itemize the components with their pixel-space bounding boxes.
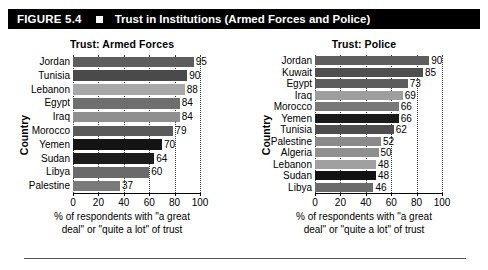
category-label: Palestine <box>29 179 70 193</box>
axis-tick <box>340 193 341 196</box>
axis-tick <box>315 193 316 196</box>
bar <box>73 57 194 67</box>
bar-value-label: 85 <box>423 67 436 79</box>
bar <box>315 68 423 77</box>
xaxis-caption-line2: deal" or "quite a lot" of trust <box>4 224 240 237</box>
category-label: Tunisia <box>280 124 312 136</box>
bar <box>73 181 120 191</box>
plot-area-police: JordanKuwaitEgyptIraqMoroccoYemenTunisia… <box>260 55 476 193</box>
category-label: Yemen <box>281 113 312 125</box>
axis-tick <box>417 193 418 196</box>
bar-value-label: 52 <box>381 136 394 148</box>
category-label: Jordan <box>39 55 70 69</box>
bar-value-label: 88 <box>185 83 198 97</box>
category-label: Libya <box>288 182 312 194</box>
bottom-rule <box>24 258 466 259</box>
category-label: Iraq <box>53 110 70 124</box>
plot-area-armed-forces: JordanTunisiaLebanonEgyptIraqMoroccoYeme… <box>18 55 234 193</box>
bar <box>315 183 373 192</box>
bar-value-label: 90 <box>429 55 442 67</box>
category-label: Jordan <box>281 55 312 67</box>
bar-value-label: 79 <box>173 124 186 138</box>
category-label: Algeria <box>281 147 312 159</box>
xaxis-line-armed-forces <box>73 193 200 194</box>
axis-tick <box>73 193 74 196</box>
bars-police: 908573696666625250484846 <box>315 55 442 193</box>
bar-value-label: 84 <box>180 96 193 110</box>
bar-value-label: 50 <box>379 147 392 159</box>
category-labels-police: JordanKuwaitEgyptIraqMoroccoYemenTunisia… <box>260 55 315 193</box>
bar <box>73 153 154 163</box>
bar <box>73 112 180 122</box>
panel-title-police: Trust: Police <box>246 38 482 50</box>
xaxis-caption-line1: % of respondents with "a great <box>4 211 240 224</box>
category-label: Lebanon <box>31 83 70 97</box>
bar-value-label: 66 <box>399 113 412 125</box>
bars-armed-forces: 95908884847970646037 <box>73 55 200 193</box>
axis-tick <box>175 193 176 196</box>
category-label: Lebanon <box>273 159 312 171</box>
category-labels-armed-forces: JordanTunisiaLebanonEgyptIraqMoroccoYeme… <box>18 55 73 193</box>
figure-number: FIGURE 5.4 <box>17 13 82 25</box>
bar <box>73 70 187 80</box>
bar-value-label: 73 <box>408 78 421 90</box>
category-label: Libya <box>46 165 70 179</box>
category-label: Morocco <box>32 124 70 138</box>
bar-value-label: 90 <box>187 69 200 83</box>
gridline <box>442 55 443 193</box>
xaxis-caption-armed-forces: % of respondents with "a great deal" or … <box>4 211 240 236</box>
axis-tick <box>98 193 99 196</box>
category-label: Egypt <box>286 78 312 90</box>
figure-title: Trust in Institutions (Armed Forces and … <box>115 13 371 25</box>
bar <box>315 137 381 146</box>
bar <box>315 91 403 100</box>
bar-value-label: 95 <box>194 55 207 69</box>
bar-value-label: 46 <box>373 182 386 194</box>
axis-tick <box>366 193 367 196</box>
bar-value-label: 69 <box>403 90 416 102</box>
bar-value-label: 37 <box>120 179 133 193</box>
bar-value-label: 64 <box>154 152 167 166</box>
bar <box>315 79 408 88</box>
axis-tick-label: 100 <box>185 197 215 208</box>
bar-value-label: 48 <box>376 159 389 171</box>
category-label: Kuwait <box>282 67 312 79</box>
xaxis-line-police <box>315 193 442 194</box>
axis-tick-label: 100 <box>427 197 457 208</box>
axis-tick <box>391 193 392 196</box>
axis-tick <box>149 193 150 196</box>
bar <box>315 102 399 111</box>
chart-panel-police: Trust: Police Country JordanKuwaitEgyptI… <box>246 33 482 255</box>
bar <box>315 125 394 134</box>
bar <box>315 114 399 123</box>
category-label: Yemen <box>39 138 70 152</box>
panel-title-armed-forces: Trust: Armed Forces <box>4 38 240 50</box>
square-marker-icon <box>96 16 103 23</box>
bar <box>315 171 376 180</box>
bar-value-label: 84 <box>180 110 193 124</box>
xaxis-caption-police: % of respondents with "a great deal" or … <box>246 211 482 236</box>
chart-panel-armed-forces: Trust: Armed Forces Country JordanTunisi… <box>4 33 240 255</box>
bar-value-label: 66 <box>399 101 412 113</box>
bar-value-label: 70 <box>162 138 175 152</box>
axis-tick <box>200 193 201 196</box>
axis-tick <box>124 193 125 196</box>
bar <box>73 84 185 94</box>
bar-value-label: 60 <box>149 165 162 179</box>
category-label: Sudan <box>283 170 312 182</box>
category-label: Tunisia <box>38 69 70 83</box>
category-label: Egypt <box>44 96 70 110</box>
bar-value-label: 48 <box>376 170 389 182</box>
bar <box>315 148 379 157</box>
xaxis-caption-line2: deal" or "quite a lot" of trust <box>246 224 482 237</box>
figure-header: FIGURE 5.4 Trust in Institutions (Armed … <box>8 9 480 29</box>
category-label: Morocco <box>274 101 312 113</box>
category-label: Sudan <box>41 152 70 166</box>
xaxis-caption-line1: % of respondents with "a great <box>246 211 482 224</box>
bar <box>315 56 429 65</box>
axis-tick <box>442 193 443 196</box>
bar <box>73 126 173 136</box>
bar <box>73 139 162 149</box>
category-label: Iraq <box>295 90 312 102</box>
bar <box>73 167 149 177</box>
